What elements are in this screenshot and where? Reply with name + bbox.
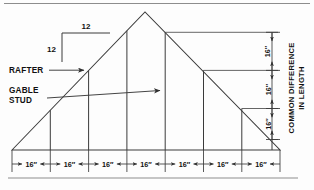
- gable-roof-diagram: 12 12 RAFTER GABLE STUD: [0, 0, 314, 190]
- bottom-dimension-value: 16″: [25, 160, 37, 169]
- gable-stud-label-line1: GABLE: [9, 86, 39, 95]
- pitch-rise-label: 12: [47, 45, 56, 54]
- pitch-run-label: 12: [82, 22, 91, 31]
- bottom-dimension-value: 16″: [255, 160, 267, 169]
- gable-stud-label-line2: STUD: [9, 96, 32, 105]
- side-dimension-value: 16″: [264, 83, 273, 95]
- rafter-label: RAFTER: [9, 66, 43, 75]
- gable-stud-leader-line: [47, 91, 160, 99]
- bottom-dimension-value: 16″: [217, 160, 229, 169]
- side-dimension-value: 16″: [264, 118, 273, 130]
- bottom-dimension-value: 16″: [64, 160, 76, 169]
- bottom-dimension-value: 16″: [179, 160, 191, 169]
- bottom-dimension-value: 16″: [102, 160, 114, 169]
- figure-canvas: 12 12 RAFTER GABLE STUD: [0, 0, 314, 190]
- common-difference-label-line1: COMMON DIFFERENCE: [287, 42, 296, 133]
- bottom-dimension-value: 16″: [140, 160, 152, 169]
- projector-lines: [165, 32, 278, 139]
- pitch-indicator: [62, 33, 110, 62]
- common-difference-label-line2: IN LENGTH: [297, 66, 306, 110]
- gable-studs: [50, 31, 272, 150]
- side-dimension-value: 16″: [264, 45, 273, 57]
